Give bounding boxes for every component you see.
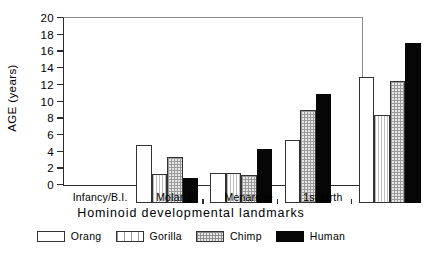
y-axis-tick: 8 [0,111,63,125]
y-axis-tick: 18 [0,28,63,42]
bar-series-container [128,36,425,203]
y-axis-tick: 2 [0,161,63,175]
plot-area [63,17,363,186]
bar-group [128,36,202,203]
x-axis-title: Hominoid developmental landmarks [0,206,382,220]
y-axis-tick: 14 [0,61,63,75]
legend-label: Gorilla [150,230,182,242]
orang-swatch-icon [37,231,65,242]
y-axis-tick: 10 [0,95,63,109]
bar-gorilla [374,115,390,204]
bar-group [202,36,276,203]
x-axis-label: Infancy/B.I. [63,190,137,204]
x-axis-label: Menarche [212,190,286,204]
legend-item-human[interactable]: Human [276,230,345,242]
y-axis-tick: 0 [0,178,63,192]
legend-label: Human [310,230,345,242]
legend-label: Chimp [230,230,262,242]
y-axis-tick: 6 [0,128,63,142]
y-axis-tick: 16 [0,44,63,58]
y-axis-tick: 20 [0,11,63,25]
y-axis-tick: 4 [0,145,63,159]
bar-group [277,36,351,203]
x-axis-label: 1st birth [286,190,360,204]
legend-label: Orang [71,230,102,242]
bar-group [351,36,425,203]
chart-legend: OrangGorillaChimpHuman [0,228,382,244]
y-axis-tick: 12 [0,78,63,92]
gorilla-swatch-icon [116,231,144,242]
bar-orang [359,77,375,203]
bar-human [405,43,421,203]
bar-human [316,94,332,203]
human-swatch-icon [276,231,304,242]
legend-item-chimp[interactable]: Chimp [196,230,262,242]
y-axis-ticks: 02468101214161820 [0,17,63,187]
legend-item-orang[interactable]: Orang [37,230,102,242]
legend-item-gorilla[interactable]: Gorilla [116,230,182,242]
chimp-swatch-icon [196,231,224,242]
x-axis-label: Molar 1 [137,190,211,204]
bar-chimp [390,81,406,203]
x-axis-category-labels: Infancy/B.I.Molar 1Menarche1st birth [63,190,363,204]
